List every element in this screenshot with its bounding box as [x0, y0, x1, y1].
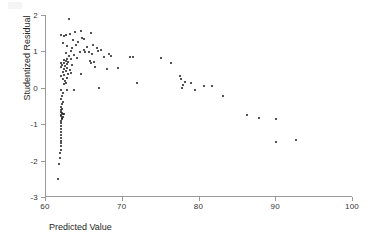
x-tick-mark — [275, 197, 276, 201]
data-point — [110, 55, 112, 57]
x-tick-label: 80 — [194, 202, 203, 211]
data-point — [258, 117, 260, 119]
data-point — [70, 50, 72, 52]
data-point — [181, 87, 183, 89]
data-point — [60, 128, 62, 130]
data-point — [60, 137, 62, 139]
data-point — [62, 92, 64, 94]
data-point — [86, 46, 88, 48]
data-point — [70, 72, 72, 74]
data-point — [60, 75, 62, 77]
data-point — [182, 84, 184, 86]
data-point — [68, 55, 70, 57]
x-tick-label: 60 — [40, 202, 49, 211]
x-tick-label: 100 — [345, 202, 359, 211]
data-point — [64, 80, 66, 82]
data-point — [73, 89, 75, 91]
x-tick-mark — [122, 197, 123, 201]
data-point — [62, 71, 64, 73]
data-point — [93, 61, 95, 63]
data-point — [69, 69, 71, 71]
data-point — [84, 51, 86, 53]
x-tick-mark — [199, 197, 200, 201]
data-point — [295, 139, 297, 141]
data-point — [66, 89, 68, 91]
corner-artifact — [8, 2, 22, 9]
x-tick-mark — [45, 197, 46, 201]
data-point — [70, 58, 72, 60]
data-point — [61, 108, 63, 110]
data-point — [75, 44, 77, 46]
data-point — [58, 163, 60, 165]
data-point — [222, 95, 224, 97]
data-point — [97, 50, 99, 52]
data-point — [96, 47, 98, 49]
y-tick-label: -1 — [0, 120, 38, 129]
data-point — [66, 58, 68, 60]
data-point — [66, 45, 68, 47]
data-point — [81, 37, 83, 39]
data-point — [71, 64, 73, 66]
data-point — [72, 39, 74, 41]
data-point — [184, 81, 186, 83]
data-point — [194, 89, 196, 91]
data-point — [63, 68, 65, 70]
data-point — [88, 51, 90, 53]
data-point — [190, 82, 192, 84]
data-point — [63, 74, 65, 76]
data-point — [90, 32, 92, 34]
data-point — [80, 73, 82, 75]
data-point — [170, 62, 172, 64]
data-point — [60, 34, 62, 36]
y-tick-mark — [41, 88, 45, 89]
data-point — [65, 52, 67, 54]
data-point — [246, 114, 248, 116]
x-tick-label: 90 — [271, 202, 280, 211]
data-point — [62, 101, 64, 103]
y-tick-label: 0 — [0, 83, 38, 92]
data-point — [211, 85, 213, 87]
data-point — [59, 152, 61, 154]
data-point — [65, 82, 67, 84]
data-point — [91, 53, 93, 55]
data-point — [60, 98, 62, 100]
data-point — [94, 66, 96, 68]
data-point — [117, 67, 119, 69]
data-point — [90, 62, 92, 64]
data-point — [61, 95, 63, 97]
data-point — [60, 145, 62, 147]
data-point — [67, 61, 69, 63]
data-point — [74, 31, 76, 33]
data-point — [67, 73, 69, 75]
data-point — [106, 68, 108, 70]
y-tick-mark — [41, 197, 45, 198]
plot-area — [45, 15, 352, 197]
data-point — [98, 87, 100, 89]
y-tick-label: -3 — [0, 193, 38, 202]
data-point — [100, 49, 102, 51]
data-point — [60, 140, 62, 142]
y-tick-mark — [41, 124, 45, 125]
data-point — [62, 42, 64, 44]
data-point — [69, 33, 71, 35]
data-point — [80, 30, 82, 32]
data-point — [275, 118, 277, 120]
x-tick-mark — [352, 197, 353, 201]
data-point — [65, 34, 67, 36]
data-point — [92, 44, 94, 46]
data-point — [103, 56, 105, 58]
data-point — [77, 41, 79, 43]
x-tick-label: 70 — [117, 202, 126, 211]
data-point — [60, 134, 62, 136]
y-axis-title: Studentized Residual — [22, 0, 32, 133]
data-point — [275, 141, 277, 143]
data-point — [62, 116, 64, 118]
data-point — [68, 18, 70, 20]
data-point — [66, 77, 68, 79]
data-point — [132, 56, 134, 58]
y-tick-mark — [41, 161, 45, 162]
data-point — [179, 75, 181, 77]
data-point — [60, 66, 62, 68]
scatter-chart: 60708090100 210-1-2-3 Predicted Value St… — [0, 0, 372, 245]
data-point — [59, 157, 61, 159]
